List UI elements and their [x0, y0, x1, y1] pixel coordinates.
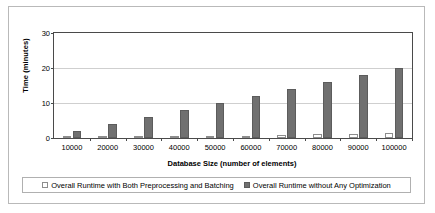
y-tick-mark: [51, 138, 54, 139]
bar: [349, 134, 358, 138]
plot-area-wrapper: Time (minutes) 0102030 10000200003000040…: [9, 7, 424, 152]
bar: [134, 136, 143, 138]
x-tick-mark: [161, 138, 162, 141]
x-axis-title: Database Size (number of elements): [53, 159, 411, 168]
chart-legend: Overall Runtime with Both Preprocessing …: [22, 177, 411, 193]
bar: [385, 133, 394, 138]
bar-series-group: [54, 33, 412, 138]
y-tick-label: 0: [20, 134, 50, 143]
bar: [277, 135, 286, 138]
bar-group: [385, 33, 404, 138]
bar-group: [63, 33, 82, 138]
bar: [180, 110, 189, 138]
x-tick-label: 100000: [371, 143, 417, 152]
x-tick-mark: [126, 138, 127, 141]
bar: [287, 89, 296, 138]
bar: [170, 136, 179, 138]
y-tick-label: 10: [20, 99, 50, 108]
bar: [73, 131, 82, 138]
legend-label: Overall Runtime without Any Optimization: [253, 181, 391, 190]
x-tick-mark: [412, 138, 413, 141]
light-square-icon: [42, 182, 48, 188]
bar-group: [349, 33, 368, 138]
bar: [144, 117, 153, 138]
bar: [206, 136, 215, 138]
bar-group: [134, 33, 153, 138]
bar: [108, 124, 117, 138]
x-tick-mark: [340, 138, 341, 141]
bar-group: [242, 33, 261, 138]
bar-group: [313, 33, 332, 138]
x-tick-mark: [233, 138, 234, 141]
x-tick-mark: [90, 138, 91, 141]
y-tick-label: 30: [20, 29, 50, 38]
bar: [313, 134, 322, 138]
bar: [242, 136, 251, 138]
chart-figure: Time (minutes) 0102030 10000200003000040…: [8, 6, 425, 204]
bar-group: [206, 33, 225, 138]
bar-group: [170, 33, 189, 138]
x-tick-mark: [305, 138, 306, 141]
dark-square-icon: [244, 182, 250, 188]
bar: [98, 136, 107, 138]
bar: [323, 82, 332, 138]
plot-frame: 0102030 10000200003000040000500006000070…: [53, 32, 413, 139]
x-tick-mark: [376, 138, 377, 141]
legend-entry: Overall Runtime without Any Optimization: [244, 181, 391, 190]
bar-group: [98, 33, 117, 138]
legend-entry: Overall Runtime with Both Preprocessing …: [42, 181, 234, 190]
bar-group: [277, 33, 296, 138]
x-tick-mark: [197, 138, 198, 141]
y-tick-label: 20: [20, 64, 50, 73]
bar: [63, 136, 72, 138]
bar: [216, 103, 225, 138]
bar: [252, 96, 261, 138]
legend-label: Overall Runtime with Both Preprocessing …: [51, 181, 234, 190]
bar: [395, 68, 404, 138]
bar: [359, 75, 368, 138]
x-tick-mark: [269, 138, 270, 141]
